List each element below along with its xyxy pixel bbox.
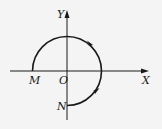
point-n-label: N <box>57 101 67 112</box>
x-axis-arrow-icon <box>141 69 149 74</box>
diagram-svg <box>0 0 162 129</box>
diagram-canvas: Y M O X N <box>0 0 162 129</box>
point-m-label: M <box>29 75 40 86</box>
y-axis-arrow-icon <box>65 10 70 18</box>
y-axis-label: Y <box>57 9 64 20</box>
x-axis-label: X <box>142 75 150 86</box>
origin-label: O <box>59 75 68 86</box>
